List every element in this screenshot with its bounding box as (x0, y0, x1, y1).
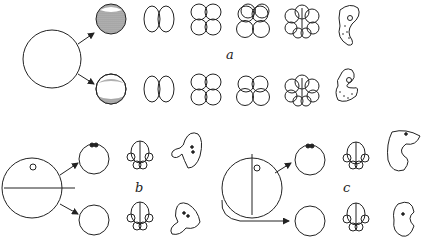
panel-label-c: c (343, 180, 350, 195)
panel-c (222, 131, 420, 237)
panel-label-b: b (135, 180, 143, 195)
panel-b (2, 133, 202, 235)
egg-a (23, 30, 81, 88)
panel-label-a: a (226, 47, 234, 62)
panel-a (23, 4, 359, 106)
diagram-drawing (0, 0, 429, 245)
embryo-development-diagram: a b c (0, 0, 429, 245)
